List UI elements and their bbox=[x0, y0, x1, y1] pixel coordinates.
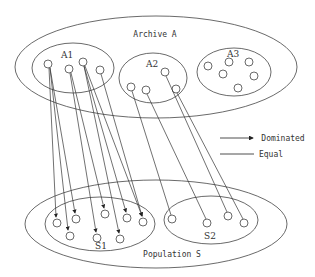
s2-nodes bbox=[168, 212, 248, 227]
a1-label: A1 bbox=[61, 50, 73, 60]
population-s-label: Population S bbox=[143, 250, 201, 259]
archive-a-label: Archive A bbox=[133, 30, 176, 39]
s1-label: S1 bbox=[95, 241, 107, 251]
s2-label: S2 bbox=[204, 231, 216, 241]
a1-nodes bbox=[44, 58, 104, 74]
dominated-arrows bbox=[49, 66, 142, 233]
legend bbox=[220, 138, 254, 154]
legend-equal-label: Equal bbox=[259, 150, 283, 159]
legend-dominated-label: Dominated bbox=[261, 134, 304, 143]
a3-nodes bbox=[204, 58, 258, 92]
s1-nodes bbox=[53, 210, 147, 243]
a2-label: A2 bbox=[146, 59, 158, 69]
a3-label: A3 bbox=[227, 49, 239, 59]
